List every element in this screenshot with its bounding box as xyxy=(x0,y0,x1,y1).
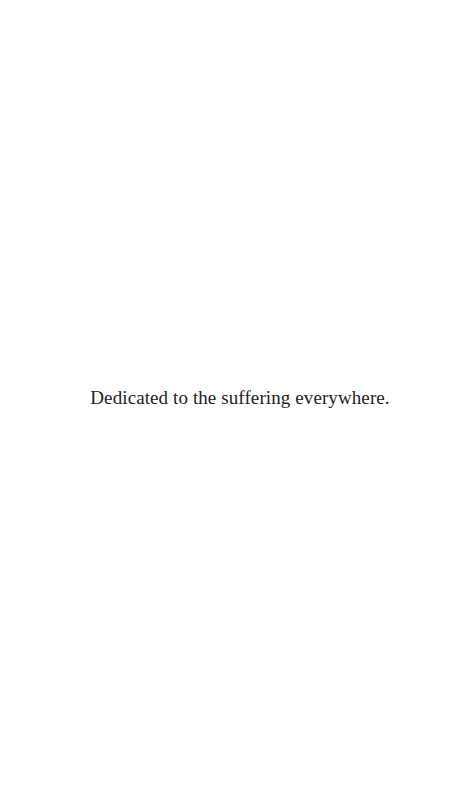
book-page: Dedicated to the suffering everywhere. xyxy=(0,0,467,789)
dedication-text: Dedicated to the suffering everywhere. xyxy=(0,386,467,410)
